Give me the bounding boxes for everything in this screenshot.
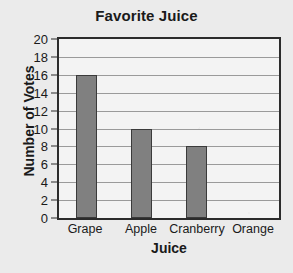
x-axis-tick-label: Cranberry — [169, 222, 225, 236]
y-axis-tick-label: 0 — [41, 212, 48, 225]
bar-slot — [59, 39, 114, 218]
y-axis-tick-label: 10 — [34, 122, 48, 135]
y-axis-tick-labels: 20181614121086420 — [0, 37, 57, 220]
y-axis-tick-label: 2 — [41, 194, 48, 207]
bar-slot — [169, 39, 224, 218]
bar-slot — [114, 39, 169, 218]
x-axis-title: Juice — [57, 240, 281, 256]
bar-apple — [131, 129, 152, 219]
x-axis-tick-label: Apple — [113, 222, 169, 236]
bar-chart-figure: Favorite Juice Number of Votes 201816141… — [0, 0, 293, 273]
y-axis-tick-label: 6 — [41, 158, 48, 171]
x-axis-tick-label: Grape — [57, 222, 113, 236]
y-axis-tick-label: 16 — [34, 68, 48, 81]
x-axis-tick-label: Orange — [225, 222, 281, 236]
chart-title: Favorite Juice — [0, 7, 293, 24]
bar-slot — [224, 39, 279, 218]
x-axis-tick-labels: GrapeAppleCranberryOrange — [57, 222, 281, 236]
bars-layer — [59, 39, 279, 218]
y-axis-tick-label: 18 — [34, 50, 48, 63]
y-axis-tick-label: 8 — [41, 140, 48, 153]
y-axis-tick-label: 14 — [34, 86, 48, 99]
plot-area — [57, 37, 281, 220]
bar-grape — [76, 75, 97, 218]
bar-cranberry — [186, 146, 207, 218]
y-axis-tick-label: 20 — [34, 33, 48, 46]
y-axis-tick-label: 4 — [41, 176, 48, 189]
y-axis-tick-label: 12 — [34, 104, 48, 117]
